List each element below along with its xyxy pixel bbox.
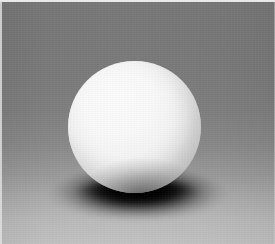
top-edge-border [0, 0, 275, 2]
right-edge-border [274, 0, 275, 244]
left-edge-border [0, 0, 2, 244]
white-sphere [68, 61, 201, 193]
sphere-photograph: White sphere on graduated gray backgroun… [0, 0, 275, 244]
